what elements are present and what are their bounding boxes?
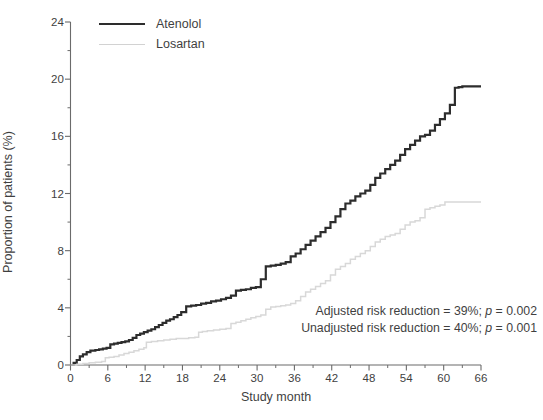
legend-label-losartan: Losartan (156, 37, 205, 51)
x-axis-title: Study month (241, 390, 311, 404)
kaplan-meier-figure: 04812162024 0612182430364248546066 Propo… (0, 0, 543, 420)
plot-canvas (0, 0, 543, 420)
x-tick-label: 60 (437, 372, 450, 384)
x-tick-label: 54 (400, 372, 413, 384)
y-tick-label: 4 (36, 302, 64, 314)
legend-line-losartan-icon (99, 44, 145, 45)
x-tick-label: 0 (67, 372, 74, 384)
legend-item-atenolol: Atenolol (99, 14, 205, 34)
y-axis-title: Proportion of patients (%) (1, 131, 15, 273)
x-tick-label: 66 (475, 372, 488, 384)
y-tick-label: 12 (36, 188, 64, 200)
y-tick-label: 16 (36, 130, 64, 142)
annotation-pvalue: = 0.002 (492, 304, 537, 318)
x-tick-label: 24 (213, 372, 226, 384)
y-tick-label: 0 (36, 359, 64, 371)
statistics-annotations: Adjusted risk reduction = 39%; p = 0.002… (301, 303, 537, 337)
x-tick-label: 42 (325, 372, 338, 384)
legend-label-atenolol: Atenolol (156, 17, 201, 31)
x-tick-label: 48 (363, 372, 376, 384)
annotation-text: Unadjusted risk reduction = 40%; (301, 321, 485, 335)
x-tick-label: 6 (105, 372, 112, 384)
x-tick-label: 18 (176, 372, 189, 384)
x-tick-label: 36 (288, 372, 301, 384)
x-tick-label: 12 (139, 372, 152, 384)
annotation-text: Adjusted risk reduction = 39%; (316, 304, 486, 318)
chart-legend: Atenolol Losartan (99, 14, 205, 54)
y-tick-label: 8 (36, 245, 64, 257)
annotation-pvalue: = 0.001 (492, 321, 537, 335)
annotation-adjusted-risk-reduction: Adjusted risk reduction = 39%; p = 0.002 (301, 303, 537, 320)
y-tick-label: 20 (36, 73, 64, 85)
legend-line-atenolol-icon (99, 23, 145, 25)
y-tick-label: 24 (36, 16, 64, 28)
legend-item-losartan: Losartan (99, 34, 205, 54)
annotation-unadjusted-risk-reduction: Unadjusted risk reduction = 40%; p = 0.0… (301, 320, 537, 337)
x-tick-label: 30 (251, 372, 264, 384)
